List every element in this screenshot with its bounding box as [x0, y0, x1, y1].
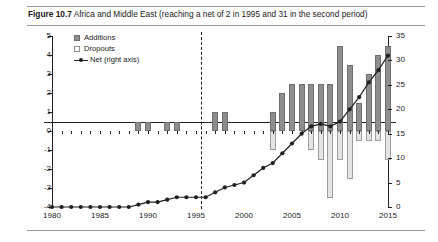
right-axis-tick — [388, 60, 392, 61]
net-data-point — [146, 200, 150, 204]
x-axis-tick-label: 1995 — [179, 212, 213, 220]
right-axis-tick — [388, 183, 392, 184]
net-data-point — [242, 180, 246, 184]
figure-container: Figure 10.7 Africa and Middle East (reac… — [0, 0, 438, 242]
left-axis-tick-label: 2 — [47, 89, 51, 97]
net-data-point — [357, 95, 361, 99]
right-axis-tick-label: 30 — [396, 56, 405, 64]
title-rule-bottom — [27, 25, 425, 26]
right-axis-tick — [388, 36, 392, 37]
x-axis-tick-label: 2000 — [227, 212, 261, 220]
x-axis-minor-tick — [138, 131, 139, 134]
x-axis-minor-tick — [196, 131, 197, 134]
left-axis-tick-label: 5 — [47, 32, 51, 40]
x-axis-minor-tick — [186, 131, 187, 134]
x-axis-minor-tick — [254, 131, 255, 134]
x-axis-tick-label: 1990 — [131, 212, 165, 220]
right-axis-tick — [388, 85, 392, 86]
left-axis-tick-label: -3 — [44, 184, 51, 192]
right-axis-tick-label: 0 — [396, 203, 400, 211]
x-axis-minor-tick — [110, 131, 111, 134]
x-axis-minor-tick — [90, 131, 91, 134]
x-axis-minor-tick — [81, 131, 82, 134]
net-data-point — [252, 173, 256, 177]
x-axis-tick-label: 1985 — [83, 212, 117, 220]
right-axis-tick — [388, 207, 392, 208]
net-data-point — [290, 141, 294, 145]
net-data-point — [69, 205, 73, 209]
net-series-line — [52, 36, 388, 207]
x-axis-minor-tick — [350, 131, 351, 134]
net-data-point — [194, 195, 198, 199]
net-data-point — [175, 195, 179, 199]
net-data-point — [309, 124, 313, 128]
x-axis-minor-tick — [62, 131, 63, 134]
x-axis-minor-tick — [340, 131, 341, 134]
net-data-point — [271, 161, 275, 165]
x-axis-minor-tick — [244, 131, 245, 134]
right-axis-tick-label: 25 — [396, 81, 405, 89]
net-data-point — [165, 198, 169, 202]
x-axis-minor-tick — [263, 131, 264, 134]
net-data-point — [223, 185, 227, 189]
x-axis-minor-tick — [273, 131, 274, 134]
figure-number: Figure 10.7 — [28, 9, 72, 19]
x-axis-minor-tick — [167, 131, 168, 134]
x-axis-minor-tick — [378, 131, 379, 134]
left-axis-tick-label: -2 — [44, 165, 51, 173]
right-axis-tick-label: 15 — [396, 130, 405, 138]
title-rule-top — [27, 6, 425, 7]
x-axis-minor-tick — [330, 131, 331, 134]
net-data-point — [338, 119, 342, 123]
x-axis-minor-tick — [369, 131, 370, 134]
period-break-dashed-line — [201, 32, 202, 209]
right-axis-tick — [388, 109, 392, 110]
net-data-point — [136, 202, 140, 206]
x-axis-minor-tick — [177, 131, 178, 134]
x-axis-minor-tick — [311, 131, 312, 134]
left-axis-tick-label: -4 — [44, 203, 51, 211]
net-data-point — [328, 124, 332, 128]
net-data-point — [60, 205, 64, 209]
right-axis-tick — [388, 158, 392, 159]
figure-rule-bottom — [27, 230, 425, 231]
figure-caption: Africa and Middle East (reaching a net o… — [74, 9, 368, 19]
left-axis-tick-label: -1 — [44, 146, 51, 154]
x-axis-minor-tick — [388, 131, 389, 134]
net-data-point — [184, 195, 188, 199]
net-data-point — [204, 195, 208, 199]
net-data-point — [367, 80, 371, 84]
net-data-point — [127, 205, 131, 209]
net-data-point — [213, 190, 217, 194]
figure-title: Figure 10.7 Africa and Middle East (reac… — [28, 9, 428, 20]
net-data-point — [79, 205, 83, 209]
x-axis-minor-tick — [321, 131, 322, 134]
right-axis-tick-label: 35 — [396, 32, 405, 40]
left-axis-tick-label: 3 — [47, 70, 51, 78]
x-axis-minor-tick — [129, 131, 130, 134]
net-data-point — [376, 68, 380, 72]
left-axis-tick-label: 1 — [47, 108, 51, 116]
net-data-point — [108, 205, 112, 209]
x-axis-tick-label: 1980 — [35, 212, 69, 220]
x-axis-minor-tick — [206, 131, 207, 134]
x-axis-minor-tick — [234, 131, 235, 134]
right-axis-tick-label: 20 — [396, 105, 405, 113]
x-axis-minor-tick — [215, 131, 216, 134]
x-axis-minor-tick — [282, 131, 283, 134]
net-data-point — [319, 122, 323, 126]
net-data-point — [117, 205, 121, 209]
net-data-point — [261, 166, 265, 170]
x-axis-minor-tick — [52, 131, 53, 134]
left-axis-tick-label: 4 — [47, 51, 51, 59]
net-data-point — [156, 200, 160, 204]
plot-area: -4-3-2-101234505101520253035198019851990… — [52, 36, 388, 207]
x-axis-minor-tick — [225, 131, 226, 134]
net-data-point — [98, 205, 102, 209]
right-axis-tick-label: 10 — [396, 154, 405, 162]
x-axis-tick-label: 2010 — [323, 212, 357, 220]
net-data-point — [386, 53, 390, 57]
x-axis-minor-tick — [71, 131, 72, 134]
x-axis-minor-tick — [148, 131, 149, 134]
x-axis-minor-tick — [119, 131, 120, 134]
